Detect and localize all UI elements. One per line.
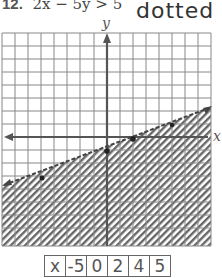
table-cell: x (45, 256, 66, 276)
x-axis-label: x (213, 128, 221, 144)
y-axis-label: y (102, 15, 110, 31)
y-axis-arrow-icon (103, 33, 111, 43)
values-table: x -5 0 2 4 5 (44, 255, 171, 277)
table-cell: 5 (150, 256, 170, 276)
table-cell: 2 (108, 256, 129, 276)
coordinate-graph (0, 0, 222, 278)
table-cell: 0 (87, 256, 108, 276)
table-cell: 4 (129, 256, 150, 276)
table-cell: -5 (66, 256, 87, 276)
line-arrow-lower-icon (2, 179, 12, 186)
x-axis-arrow-left-icon (4, 133, 13, 141)
